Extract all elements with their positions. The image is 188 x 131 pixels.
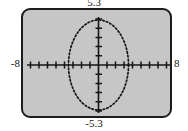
window-label-ymax: 5.3 <box>0 0 188 8</box>
plot-canvas <box>23 10 172 118</box>
window-label-xmax: 8 <box>174 58 187 69</box>
window-label-ymin: -5.3 <box>0 118 188 129</box>
calculator-screen <box>21 8 172 118</box>
graphing-calculator-figure: 5.3 -8 8 -5.3 <box>0 0 188 131</box>
window-label-xmin: -8 <box>1 58 20 69</box>
